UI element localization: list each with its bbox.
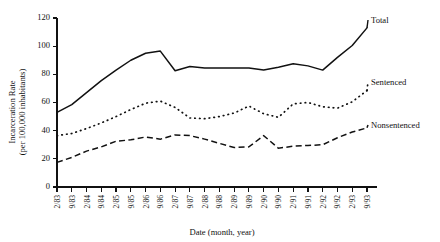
series-label-nonsentenced: Nonsentenced [371,120,420,130]
y-axis-tick-label: 60 [42,96,51,106]
y-axis-tick-label: 40 [42,125,51,135]
x-axis-tick-label: 9/83 [68,195,77,209]
series-line-total [57,28,367,113]
y-axis-tick-label: 80 [42,68,51,78]
y-axis-tick-label: 120 [37,12,50,22]
series-label-total: Total [371,15,389,25]
x-axis-tick-label: 9/88 [215,195,224,209]
x-axis-tick-label: 9/89 [245,195,254,209]
y-axis-tick-label: 100 [37,40,50,50]
x-axis-tick-labels: 2/839/832/849/842/859/852/869/862/879/87… [53,195,372,209]
x-axis-title: Date (month, year) [189,227,254,237]
x-axis-tick-label: 9/92 [333,195,342,209]
leader-line-sentenced [367,82,368,91]
x-axis-tick-label: 2/87 [171,195,180,209]
series-line-nonsentenced [57,128,367,163]
series-line-sentenced [57,91,367,136]
x-axis-tick-label: 9/85 [127,195,136,209]
x-axis-tick-label: 9/86 [156,195,165,209]
x-axis-ticks [57,187,367,192]
y-axis-title-line1: Incarceration Rate [7,80,17,143]
chart-canvas: Incarceration Rate (per 100,000 inhabita… [0,0,440,242]
x-axis-tick-label: 2/91 [289,195,298,209]
x-axis-tick-label: 9/84 [97,195,106,209]
y-axis-tick-label: 0 [46,181,50,191]
y-axis-tick-labels: 020406080100120 [37,12,50,191]
x-axis-tick-label: 2/92 [319,195,328,209]
x-axis-tick-label: 2/90 [260,195,269,209]
x-axis-tick-label: 9/91 [304,195,313,209]
x-axis-tick-label: 9/93 [363,195,372,209]
x-axis-tick-label: 2/86 [142,195,151,209]
leader-line-total [367,20,368,28]
x-axis-tick-label: 2/93 [348,195,357,209]
x-axis-tick-label: 2/83 [53,195,62,209]
x-axis-tick-label: 9/87 [186,195,195,209]
y-axis-title-line2: (per 100,000 inhabitants) [17,69,27,156]
x-axis-tick-label: 2/89 [230,195,239,209]
series-label-sentenced: Sentenced [371,77,407,87]
y-axis-title: Incarceration Rate (per 100,000 inhabita… [7,69,27,156]
x-axis-tick-label: 2/85 [112,195,121,209]
leader-line-nonsentenced [367,125,368,128]
x-axis-tick-label: 2/88 [201,195,210,209]
y-axis-tick-label: 20 [42,153,51,163]
x-axis-tick-label: 9/90 [274,195,283,209]
x-axis-tick-label: 2/84 [83,195,92,209]
incarceration-rate-chart: Incarceration Rate (per 100,000 inhabita… [0,0,440,242]
